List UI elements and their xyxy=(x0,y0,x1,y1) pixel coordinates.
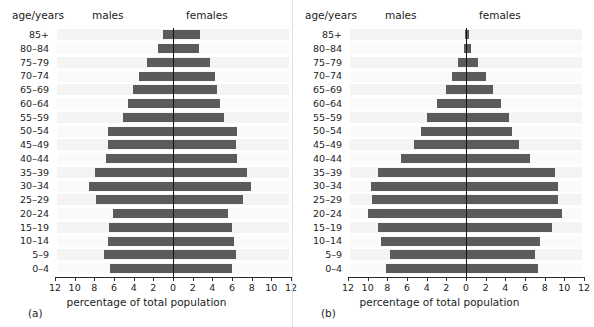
bar-female xyxy=(173,250,236,259)
age-group-label: 75–79 xyxy=(0,57,49,68)
age-group-label: 20–24 xyxy=(293,208,342,219)
pyramid-row: 80–84 xyxy=(0,42,293,56)
bar-male xyxy=(378,223,467,232)
bar-female xyxy=(466,209,562,218)
age-group-label: 0–4 xyxy=(293,263,342,274)
pyramid-row: 85+ xyxy=(0,28,293,42)
bar-female xyxy=(173,44,199,53)
age-group-label: 5–9 xyxy=(0,249,49,260)
bar-male xyxy=(372,195,466,204)
population-pyramid-panel-b: age/years males females 85+80–8475–7970–… xyxy=(293,0,586,327)
bar-rows-b: 85+80–8475–7970–7465–6960–6455–5950–5445… xyxy=(293,28,586,276)
panel-caption-b: (b) xyxy=(321,307,336,319)
bar-female xyxy=(173,195,243,204)
age-group-label: 65–69 xyxy=(0,84,49,95)
bar-female xyxy=(466,250,535,259)
panel-caption-a: (a) xyxy=(28,307,43,319)
age-group-label: 45–49 xyxy=(293,139,342,150)
pyramid-row: 25–29 xyxy=(0,193,293,207)
bar-female xyxy=(173,237,234,246)
age-group-label: 55–59 xyxy=(293,112,342,123)
bar-female xyxy=(466,168,555,177)
axis-tick xyxy=(153,277,154,281)
pyramid-row: 45–49 xyxy=(0,138,293,152)
bar-female xyxy=(466,223,552,232)
axis-tick xyxy=(427,277,428,281)
age-group-label: 60–64 xyxy=(293,98,342,109)
bar-male xyxy=(414,140,466,149)
axis-tick xyxy=(348,277,349,281)
bar-female xyxy=(466,58,478,67)
age-group-label: 55–59 xyxy=(0,112,49,123)
bar-female xyxy=(173,264,232,273)
age-group-label: 35–39 xyxy=(0,167,49,178)
pyramid-row: 85+ xyxy=(293,28,586,42)
pyramid-row: 40–44 xyxy=(293,152,586,166)
pyramid-row: 0–4 xyxy=(293,262,586,276)
bar-female xyxy=(466,264,538,273)
axis-tick xyxy=(368,277,369,281)
bar-male xyxy=(446,85,466,94)
pyramid-row: 5–9 xyxy=(0,248,293,262)
bar-male xyxy=(128,99,173,108)
bar-male xyxy=(139,72,173,81)
pyramid-row: 10–14 xyxy=(0,234,293,248)
pyramid-row: 10–14 xyxy=(293,234,586,248)
bar-male xyxy=(96,195,173,204)
pyramid-row: 50–54 xyxy=(293,124,586,138)
axis-tick xyxy=(134,277,135,281)
bar-male xyxy=(452,72,466,81)
zero-axis-line xyxy=(466,28,467,278)
axis-tick xyxy=(486,277,487,281)
bar-male xyxy=(108,127,173,136)
bar-female xyxy=(173,223,232,232)
bar-female xyxy=(173,99,220,108)
bar-male xyxy=(386,264,466,273)
bar-female xyxy=(466,237,540,246)
axis-tick xyxy=(505,277,506,281)
age-group-label: 10–14 xyxy=(0,235,49,246)
pyramid-row: 60–64 xyxy=(293,97,586,111)
age-group-label: 30–34 xyxy=(293,180,342,191)
bar-male xyxy=(458,58,466,67)
bar-male xyxy=(89,182,173,191)
axis-tick xyxy=(271,277,272,281)
pyramid-row: 5–9 xyxy=(293,248,586,262)
age-group-label: 40–44 xyxy=(293,153,342,164)
pyramid-row: 75–79 xyxy=(0,56,293,70)
bar-male xyxy=(381,237,466,246)
axis-tick xyxy=(584,277,585,281)
bar-female xyxy=(173,154,237,163)
bar-male xyxy=(421,127,466,136)
age-group-label: 40–44 xyxy=(0,153,49,164)
axis-tick xyxy=(173,277,174,281)
bar-male xyxy=(163,30,173,39)
bar-female xyxy=(173,85,217,94)
females-column-header: females xyxy=(186,9,228,23)
bar-female xyxy=(173,58,210,67)
bar-female xyxy=(466,154,530,163)
bar-male xyxy=(95,168,173,177)
pyramid-row: 30–34 xyxy=(0,179,293,193)
pyramid-row: 35–39 xyxy=(293,166,586,180)
age-group-label: 85+ xyxy=(293,29,342,40)
pyramid-row: 75–79 xyxy=(293,56,586,70)
bar-female xyxy=(466,127,512,136)
bar-female xyxy=(466,85,493,94)
bar-rows-a: 85+80–8475–7970–7465–6960–6455–5950–5445… xyxy=(0,28,293,276)
axis-tick xyxy=(252,277,253,281)
pyramid-row: 20–24 xyxy=(0,207,293,221)
axis-tick-label: 12 xyxy=(573,282,594,294)
bar-female xyxy=(173,182,251,191)
age-column-header: age/years xyxy=(12,9,64,23)
pyramid-row: 55–59 xyxy=(0,111,293,125)
axis-tick xyxy=(114,277,115,281)
pyramid-row: 55–59 xyxy=(293,111,586,125)
bar-female xyxy=(466,182,558,191)
pyramid-row: 35–39 xyxy=(0,166,293,180)
bar-female xyxy=(466,140,519,149)
age-group-label: 15–19 xyxy=(0,222,49,233)
bar-female xyxy=(173,168,247,177)
bar-male xyxy=(106,154,173,163)
axis-tick xyxy=(564,277,565,281)
